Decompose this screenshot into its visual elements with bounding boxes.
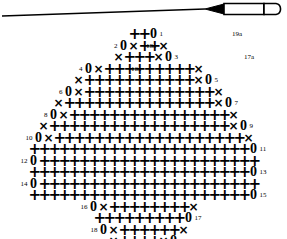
- stitch-chart: ++0120×++××+++×0340×+++++++++××+++++++++…: [0, 26, 287, 239]
- row-number-mirror: 18a: [146, 40, 156, 52]
- single-crochet-symbol: +: [59, 189, 69, 201]
- single-crochet-symbol: +: [29, 189, 39, 201]
- single-crochet-symbol: +: [149, 235, 159, 239]
- crochet-hook-illustration: [0, 0, 287, 26]
- hook-shaft: [2, 9, 205, 16]
- row-number-left: 16: [76, 201, 89, 213]
- slip-stitch-symbol: ×: [179, 224, 189, 236]
- single-crochet-symbol: +: [219, 189, 229, 201]
- hook-barrel: [224, 4, 264, 15]
- row-number-right: 19: [179, 235, 192, 239]
- single-crochet-symbol: +: [199, 189, 209, 201]
- single-crochet-symbol: +: [79, 189, 89, 201]
- chart-row: ×++++×019: [0, 235, 287, 239]
- row-number-left: 18: [86, 224, 99, 236]
- crochet-chart-page: ++0120×++××+++×0340×+++++++++××+++++++++…: [0, 0, 287, 239]
- chain-symbol: 0: [169, 235, 179, 239]
- single-crochet-symbol: +: [239, 189, 249, 201]
- hook-svg: [0, 0, 287, 26]
- single-crochet-symbol: +: [229, 189, 239, 201]
- chain-symbol: 0: [99, 224, 109, 236]
- hook-end-cap: [264, 4, 281, 15]
- chain-symbol: 0: [249, 189, 259, 201]
- single-crochet-symbol: +: [139, 235, 149, 239]
- single-crochet-symbol: +: [39, 189, 49, 201]
- single-crochet-symbol: +: [209, 189, 219, 201]
- single-crochet-symbol: +: [49, 189, 59, 201]
- row-number-left: 12: [16, 155, 29, 167]
- row-number-right: 15: [259, 189, 272, 201]
- single-crochet-symbol: +: [119, 235, 129, 239]
- single-crochet-symbol: +: [129, 235, 139, 239]
- row-number-left: 14: [16, 178, 29, 190]
- row-number-right: 17: [194, 212, 207, 224]
- single-crochet-symbol: +: [69, 189, 79, 201]
- slip-stitch-symbol: ×: [159, 235, 169, 239]
- row-number-mirror: 16a: [131, 63, 141, 75]
- slip-stitch-symbol: ×: [109, 235, 119, 239]
- row-number-mirror: 19a: [232, 28, 242, 40]
- row-number-mirror: 17a: [244, 51, 254, 63]
- hook-tip: [205, 4, 224, 14]
